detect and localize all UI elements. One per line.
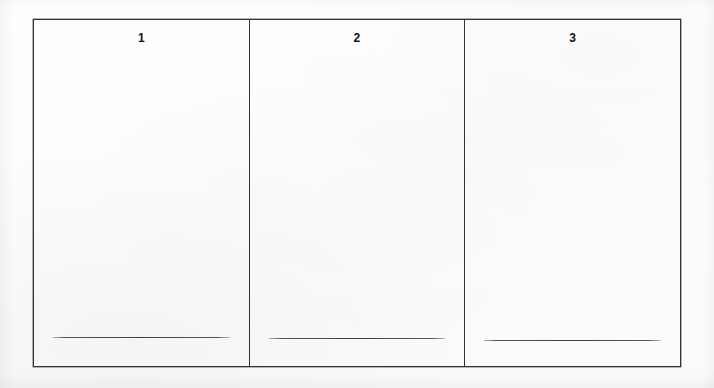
column-number-label: 1 (34, 31, 249, 45)
answer-rule (53, 337, 230, 338)
scanned-page: 1 2 3 (0, 0, 714, 388)
column-number-label: 2 (250, 31, 465, 45)
table-column-1[interactable]: 1 (34, 20, 250, 366)
table-column-2[interactable]: 2 (250, 20, 466, 366)
answer-rule (269, 338, 446, 339)
three-column-table: 1 2 3 (33, 19, 681, 367)
answer-rule (484, 340, 661, 341)
table-column-3[interactable]: 3 (465, 20, 680, 366)
column-number-label: 3 (465, 31, 680, 45)
